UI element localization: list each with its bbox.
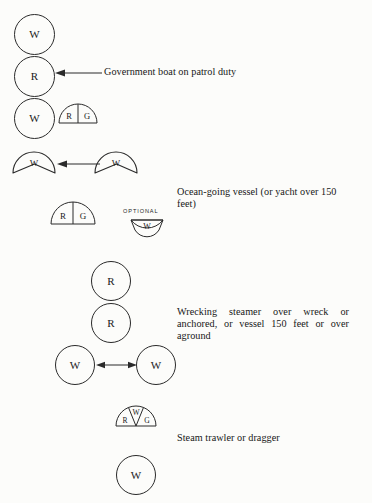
- light-label: R: [107, 276, 115, 287]
- light-label: W: [29, 29, 40, 40]
- light-label: W: [131, 470, 142, 481]
- light-circle-white-5: W: [116, 455, 156, 495]
- light-label: R: [107, 318, 115, 329]
- light-label: W: [151, 360, 162, 371]
- sector-label-red: R: [122, 416, 128, 425]
- fan-light-white-optional: W: [128, 216, 166, 240]
- light-label: R: [31, 71, 39, 82]
- bowl-label: W: [30, 158, 39, 168]
- caption-steam-trawler: Steam trawler or dragger: [177, 432, 347, 444]
- half-disc-red-green-2: R G: [49, 197, 97, 227]
- light-circle-red-3: R: [91, 303, 131, 343]
- bowl-label: W: [112, 158, 121, 168]
- sector-label-green: G: [84, 111, 90, 121]
- light-label: W: [29, 113, 40, 124]
- sector-label-red: R: [66, 111, 72, 121]
- light-circle-white-3: W: [55, 345, 95, 385]
- light-circle-white-1: W: [14, 14, 55, 55]
- separation-arrow-double: [96, 359, 137, 371]
- caption-government-boat: Government boat on patrol duty: [104, 66, 304, 78]
- light-circle-white-4: W: [136, 345, 176, 385]
- bowl-light-white-1: W: [11, 146, 58, 178]
- pointer-arrow-government-boat: [55, 67, 103, 79]
- sector-label-red: R: [60, 211, 66, 221]
- sector-label-white: W: [132, 408, 140, 417]
- caption-ocean-going: Ocean-going vessel (or yacht over 150 fe…: [177, 186, 345, 210]
- optional-label: OPTIONAL: [123, 208, 159, 214]
- bowl-light-white-2: W: [93, 146, 140, 178]
- light-label: W: [70, 360, 81, 371]
- sector-label-green: G: [144, 416, 150, 425]
- light-circle-white-2: W: [14, 98, 55, 139]
- sector-label-green: G: [80, 211, 87, 221]
- diagram-page: W R Government boat on patrol duty W R G…: [0, 0, 372, 503]
- fan-label: W: [143, 222, 151, 231]
- half-disc-red-green-1: R G: [57, 99, 99, 125]
- half-disc-red-white-green: R W G: [114, 403, 158, 429]
- light-circle-red-1: R: [14, 56, 55, 97]
- caption-wrecking-steamer: Wrecking steamer over wreck or anchored,…: [177, 306, 349, 343]
- light-circle-red-2: R: [91, 261, 131, 301]
